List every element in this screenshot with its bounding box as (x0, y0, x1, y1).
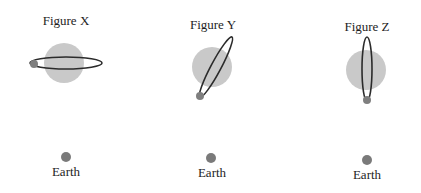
figure-title-z: Figure Z (344, 20, 389, 34)
figure-y (192, 35, 236, 163)
figure-title-x: Figure X (43, 14, 90, 28)
sun-disc (346, 50, 386, 90)
earth-label-z: Earth (353, 168, 381, 182)
earth-dot (206, 153, 216, 163)
figure-x (30, 43, 102, 162)
earth-label-y: Earth (198, 166, 226, 180)
figure-title-y: Figure Y (190, 18, 236, 32)
orbiting-body (30, 60, 38, 68)
orbiting-body (196, 92, 204, 100)
earth-label-x: Earth (52, 165, 80, 179)
sun-disc (44, 43, 84, 83)
earth-dot (362, 155, 372, 165)
figure-z (346, 37, 386, 165)
earth-dot (61, 152, 71, 162)
sun-disc (192, 47, 232, 87)
orbiting-body (363, 96, 371, 104)
